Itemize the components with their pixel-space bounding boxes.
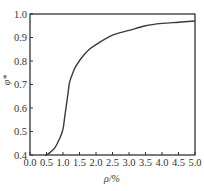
x-tick-label: 4.5 [172,157,185,168]
x-axis-title: ρ/% [103,173,120,184]
x-tick-label: 3.5 [139,157,152,168]
y-tick-label: 0.5 [14,126,27,137]
x-tick-label: 4.0 [155,157,168,168]
x-tick-label: 0.5 [40,157,53,168]
x-tick-label: 3.0 [122,157,135,168]
series-line [45,21,195,155]
x-tick-label: 1.5 [73,157,86,168]
x-tick-label: 1.0 [56,157,69,168]
y-tick-label: 0.7 [14,79,27,90]
x-tick-label: 5.0 [188,157,201,168]
x-tick-label: 2.5 [106,157,119,168]
y-axis-title: φ* [1,75,12,86]
y-tick-label: 0.8 [14,56,27,67]
data-series [45,21,195,155]
x-tick-label: 2.0 [89,157,102,168]
y-tick-label: 0.6 [14,103,27,114]
y-tick-label: 0.4 [14,150,28,161]
y-tick-label: 0.9 [14,32,27,43]
chart: 0.00.51.01.52.02.53.03.54.04.55.0 0.40.5… [0,0,204,191]
y-tick-label: 1.0 [14,9,27,20]
